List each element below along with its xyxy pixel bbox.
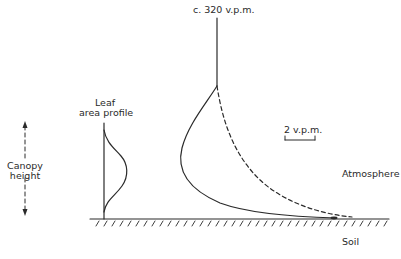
curve-junction-mark [331, 217, 338, 220]
scale-bar [285, 136, 315, 140]
scale-bar-label: 2 v.p.m. [284, 124, 322, 135]
soil-label: Soil [342, 236, 359, 247]
soil-surface [90, 219, 389, 226]
atmosphere-label: Atmosphere [342, 168, 400, 179]
leaf-area-title-line2: area profile [79, 107, 131, 118]
co2-canopy-profile-diagram [0, 0, 401, 259]
canopy-height-label-line2: height [4, 170, 46, 181]
co2-profile-night [217, 86, 352, 217]
leaf-area-profile [104, 123, 127, 219]
co2-profile-daytime [181, 86, 336, 218]
top-concentration-label: c. 320 v.p.m. [193, 4, 255, 15]
